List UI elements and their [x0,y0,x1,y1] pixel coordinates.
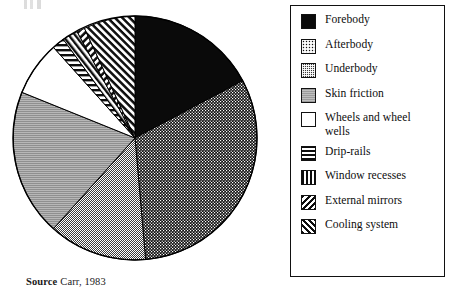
legend-label: Cooling system [325,218,398,232]
legend-label: Underbody [325,62,378,76]
legend-item-skin-friction[interactable]: Skin friction [291,87,444,105]
cropped-figure-caption-artifact [24,0,46,9]
legend-item-wheels-and-wheel-wells[interactable]: Wheels and wheel wells [291,111,444,138]
horizontal-lines-swatch-icon [301,146,316,161]
vertical-lines-swatch-icon [301,170,316,185]
source-label: Source [26,276,57,287]
white-swatch-icon [301,112,316,127]
legend-item-cooling-system[interactable]: Cooling system [291,218,444,236]
legend-item-window-recesses[interactable]: Window recesses [291,169,444,187]
forward-diagonal-hatch-swatch-icon [301,219,316,234]
legend-label: Forebody [325,13,370,27]
back-diagonal-hatch-swatch-icon [301,195,316,210]
legend-list: Forebody Afterbody Underbody Skin fricti… [291,13,444,236]
pie-slices [13,16,257,260]
light-gray-swatch-icon [301,88,316,103]
mid-dither-swatch-icon [301,63,316,78]
legend-item-external-mirrors[interactable]: External mirrors [291,194,444,212]
solid-black-swatch-icon [301,14,316,29]
legend-label: Wheels and wheel wells [325,111,438,138]
figure-root: SourceCarr, 1983 Forebody Afterbody Unde… [0,0,452,297]
legend-item-drip-rails[interactable]: Drip-rails [291,145,444,163]
legend-item-afterbody[interactable]: Afterbody [291,38,444,56]
pie-chart-svg [10,14,260,266]
legend-box: Forebody Afterbody Underbody Skin fricti… [290,5,445,277]
legend-item-underbody[interactable]: Underbody [291,62,444,80]
legend-item-forebody[interactable]: Forebody [291,13,444,31]
dark-dither-swatch-icon [301,39,316,54]
legend-label: Afterbody [325,38,373,52]
source-value: Carr, 1983 [60,276,106,287]
legend-label: Window recesses [325,169,406,183]
legend-label: Skin friction [325,87,384,101]
source-caption: SourceCarr, 1983 [26,276,106,287]
legend-label: External mirrors [325,194,402,208]
legend-label: Drip-rails [325,145,371,159]
pie-chart [10,14,260,266]
